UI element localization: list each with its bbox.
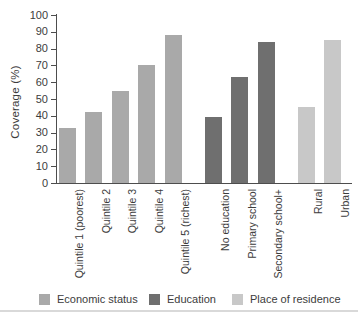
y-axis-line	[56, 14, 57, 184]
bar-urban	[324, 40, 341, 183]
y-tick-label: 40	[16, 109, 48, 121]
y-tick-label: 60	[16, 76, 48, 88]
legend-label-place-of-residence: Place of residence	[250, 293, 341, 305]
y-tick-mark	[51, 65, 56, 66]
y-tick-label: 50	[16, 93, 48, 105]
y-tick-mark	[51, 49, 56, 50]
y-tick-label: 30	[16, 126, 48, 138]
legend-item-economic-status: Economic status	[39, 293, 138, 305]
y-tick-mark	[51, 133, 56, 134]
x-axis-label: Quintile 5 (richest)	[179, 189, 191, 274]
x-axis-label: Primary school	[246, 189, 258, 258]
x-axis-label: Quintile 4	[153, 189, 165, 233]
x-axis-label: Quintile 2	[100, 189, 112, 233]
legend-swatch-place-of-residence	[232, 294, 243, 305]
bar-quintile-1-poorest	[59, 128, 76, 183]
bar-rural	[298, 107, 315, 183]
y-tick-label: 70	[16, 59, 48, 71]
x-axis-label: Secondary school+	[272, 189, 284, 279]
legend-swatch-education	[149, 294, 160, 305]
legend-item-place-of-residence: Place of residence	[232, 293, 341, 305]
x-axis-label: Urban	[339, 189, 351, 218]
legend-label-economic-status: Economic status	[57, 293, 138, 305]
bar-quintile-4	[138, 65, 155, 183]
x-axis-label: Rural	[312, 189, 324, 214]
y-tick-label: 20	[16, 143, 48, 155]
legend-swatch-economic-status	[39, 294, 50, 305]
legend: Economic status Education Place of resid…	[0, 293, 358, 309]
figure-bottom-rule	[0, 310, 358, 312]
x-axis-line	[56, 183, 352, 184]
y-tick-mark	[51, 166, 56, 167]
y-tick-mark	[51, 99, 56, 100]
y-tick-mark	[51, 116, 56, 117]
y-tick-mark	[51, 82, 56, 83]
bar-quintile-2	[85, 112, 102, 183]
y-tick-mark	[51, 183, 56, 184]
bar-no-education	[205, 117, 222, 183]
x-axis-label: No education	[219, 189, 231, 251]
y-tick-mark	[51, 149, 56, 150]
bar-quintile-5-richest	[165, 35, 182, 183]
x-axis-label: Quintile 3	[126, 189, 138, 233]
bar-chart-figure: Coverage (%) 0102030405060708090100 Quin…	[0, 0, 358, 317]
y-tick-label: 10	[16, 160, 48, 172]
legend-item-education: Education	[149, 293, 216, 305]
y-tick-label: 90	[16, 25, 48, 37]
x-axis-label: Quintile 1 (poorest)	[73, 189, 85, 278]
legend-label-education: Education	[167, 293, 216, 305]
y-tick-label: 0	[16, 177, 48, 189]
bar-quintile-3	[112, 91, 129, 183]
y-tick-label: 80	[16, 42, 48, 54]
bar-primary-school	[231, 77, 248, 183]
y-tick-mark	[51, 32, 56, 33]
y-tick-mark	[51, 15, 56, 16]
y-tick-label: 100	[16, 9, 48, 21]
bar-secondary-school	[258, 42, 275, 183]
